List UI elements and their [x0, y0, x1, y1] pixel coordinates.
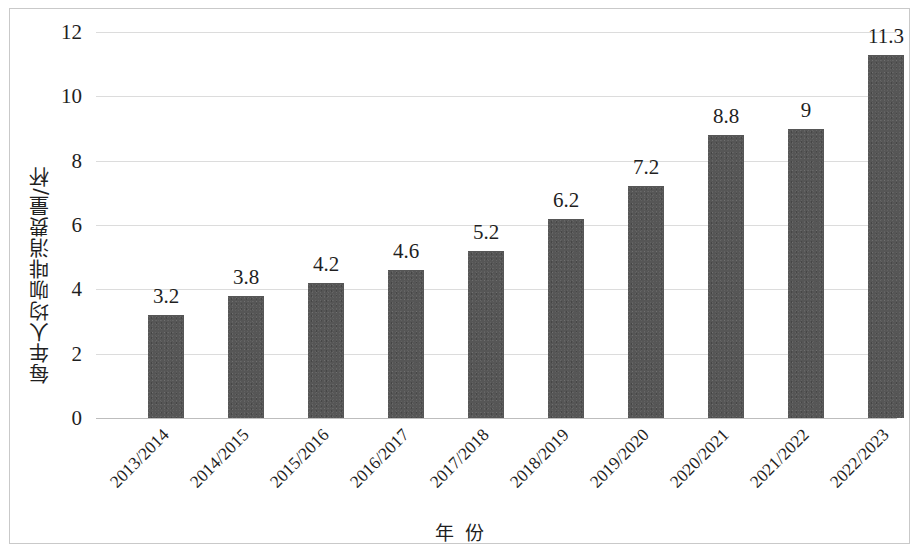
bar[interactable] — [228, 296, 264, 418]
y-axis-tick-label: 2 — [72, 343, 83, 364]
bar[interactable] — [788, 129, 824, 419]
bar-group: 6.2 — [526, 32, 606, 418]
y-axis-title: 每年人均咖啡消费量/杯 — [22, 166, 56, 388]
bar[interactable] — [468, 251, 504, 418]
bar-value-label: 9 — [801, 100, 812, 121]
bar[interactable] — [148, 315, 184, 418]
bar-group: 3.2 — [126, 32, 206, 418]
bar-group: 3.8 — [206, 32, 286, 418]
bar-group: 11.3 — [846, 32, 921, 418]
bar[interactable] — [388, 270, 424, 418]
bar-group: 9 — [766, 32, 846, 418]
bar-value-label: 3.8 — [233, 267, 259, 288]
bar-group: 5.2 — [446, 32, 526, 418]
y-axis-tick-label: 0 — [72, 408, 83, 429]
bar-value-label: 4.6 — [393, 241, 419, 262]
bar[interactable] — [628, 186, 664, 418]
bar-group: 8.8 — [686, 32, 766, 418]
bar-value-label: 7.2 — [633, 157, 659, 178]
bar[interactable] — [708, 135, 744, 418]
y-axis-tick-label: 12 — [61, 22, 82, 43]
bar-value-label: 3.2 — [153, 286, 179, 307]
bar[interactable] — [308, 283, 344, 418]
x-axis-tick-labels: 2013/20142014/20152015/20162016/20172017… — [96, 418, 897, 518]
y-axis-tick-label: 6 — [72, 215, 83, 236]
bar-value-label: 6.2 — [553, 190, 579, 211]
x-axis-tick-label-text: 2013/2014 — [107, 426, 172, 491]
bar-chart-figure: 每年人均咖啡消费量/杯 0246810123.23.84.24.65.26.27… — [0, 0, 921, 553]
y-axis-tick-label: 10 — [61, 86, 82, 107]
bar-group: 4.2 — [286, 32, 366, 418]
y-axis-title-text: 每年人均咖啡消费量/杯 — [25, 166, 54, 384]
bar[interactable] — [548, 219, 584, 418]
bar-value-label: 11.3 — [868, 26, 904, 47]
bar-value-label: 5.2 — [473, 222, 499, 243]
x-axis-title: 年 份 — [0, 518, 921, 545]
bar-value-label: 4.2 — [313, 254, 339, 275]
bar-group: 7.2 — [606, 32, 686, 418]
y-axis-tick-label: 4 — [72, 279, 83, 300]
y-axis-tick-label: 8 — [72, 150, 83, 171]
bar[interactable] — [868, 55, 904, 418]
x-axis-tick-slot: 2022/2023 — [846, 418, 921, 518]
bar-value-label: 8.8 — [713, 106, 739, 127]
bar-group: 4.6 — [366, 32, 446, 418]
plot-area: 0246810123.23.84.24.65.26.27.28.8911.3 — [96, 32, 897, 418]
